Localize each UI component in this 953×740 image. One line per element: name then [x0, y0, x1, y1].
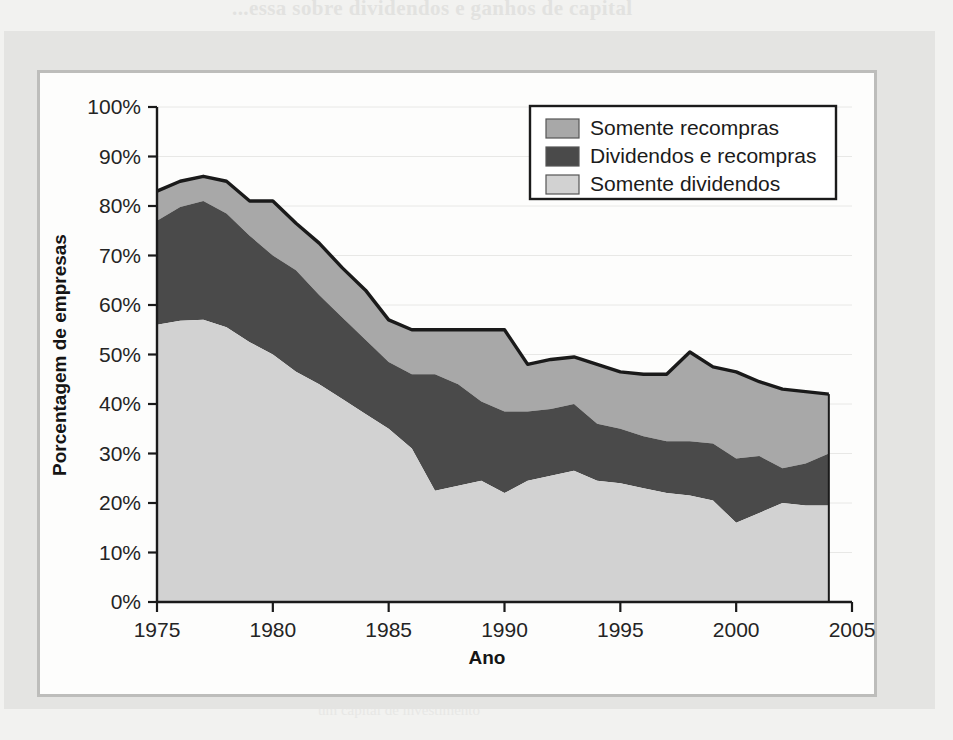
x-axis-label: Ano	[469, 647, 506, 668]
y-tick-label: 70%	[99, 244, 141, 267]
x-tick-label: 2005	[829, 618, 876, 641]
legend-swatch	[546, 119, 579, 138]
legend-label: Somente dividendos	[590, 172, 780, 195]
y-tick-label: 80%	[99, 194, 141, 217]
x-tick-label: 1975	[134, 618, 181, 641]
legend-label: Somente recompras	[590, 116, 779, 139]
x-tick-label: 1995	[597, 618, 644, 641]
y-tick-label: 50%	[99, 343, 141, 366]
y-tick-label: 10%	[99, 541, 141, 564]
y-axis-ticks: 0%10%20%30%40%50%60%70%80%90%100%	[87, 95, 157, 613]
stacked-area-chart: 0%10%20%30%40%50%60%70%80%90%100% 197519…	[0, 0, 953, 740]
legend-label: Dividendos e recompras	[590, 144, 816, 167]
area-series	[157, 176, 829, 602]
chart-legend: Somente recomprasDividendos e recomprasS…	[530, 106, 836, 199]
y-tick-label: 60%	[99, 293, 141, 316]
chart-svg: 0%10%20%30%40%50%60%70%80%90%100% 197519…	[0, 0, 953, 740]
y-tick-label: 30%	[99, 442, 141, 465]
y-tick-label: 40%	[99, 392, 141, 415]
y-axis-label: Porcentagem de empresas	[49, 234, 70, 476]
x-tick-label: 1985	[365, 618, 412, 641]
y-tick-label: 90%	[99, 145, 141, 168]
y-tick-label: 20%	[99, 491, 141, 514]
legend-swatch	[546, 147, 579, 166]
x-tick-label: 1980	[249, 618, 296, 641]
legend-swatch	[546, 175, 579, 194]
x-axis-ticks: 1975198019851990199520002005	[134, 602, 876, 641]
x-tick-label: 2000	[713, 618, 760, 641]
x-tick-label: 1990	[481, 618, 528, 641]
y-tick-label: 100%	[87, 95, 141, 118]
y-tick-label: 0%	[111, 590, 141, 613]
